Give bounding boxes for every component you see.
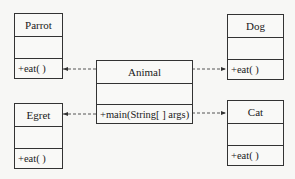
attributes-section xyxy=(97,83,192,104)
class-name: Egret xyxy=(15,104,62,126)
class-name: Dog xyxy=(228,15,283,37)
operation: +eat( ) xyxy=(15,148,62,169)
class-animal[interactable]: Animal +main(String[ ] args) xyxy=(96,60,193,124)
class-name: Animal xyxy=(97,61,192,83)
attributes-section xyxy=(15,126,62,148)
operation: +eat( ) xyxy=(228,145,283,166)
attributes-section xyxy=(228,123,283,145)
class-parrot[interactable]: Parrot +eat( ) xyxy=(14,13,63,79)
attributes-section xyxy=(15,36,62,58)
class-egret[interactable]: Egret +eat( ) xyxy=(14,103,63,169)
class-dog[interactable]: Dog +eat( ) xyxy=(227,14,284,80)
attributes-section xyxy=(228,37,283,59)
class-cat[interactable]: Cat +eat( ) xyxy=(227,100,284,166)
class-name: Cat xyxy=(228,101,283,123)
class-name: Parrot xyxy=(15,14,62,36)
operation: +eat( ) xyxy=(228,59,283,80)
operation: +eat( ) xyxy=(15,58,62,79)
operation: +main(String[ ] args) xyxy=(97,104,192,124)
